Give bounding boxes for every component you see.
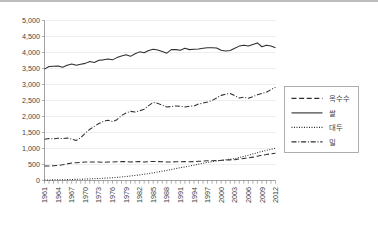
series-line <box>45 43 276 69</box>
y-axis-tick-label: 0 <box>36 176 40 185</box>
x-axis-tick-label: 1967 <box>67 187 76 203</box>
x-axis-tick-label: 2003 <box>230 187 239 203</box>
x-axis-tick-label: 1991 <box>176 187 185 203</box>
x-axis-tick-label: 1997 <box>203 187 212 203</box>
y-axis-tick-label: 1,000 <box>22 144 40 153</box>
x-axis-tick-label: 2000 <box>217 187 226 203</box>
x-axis-tick-label: 1976 <box>108 187 117 203</box>
y-axis-tick-label: 4,500 <box>22 32 40 41</box>
y-axis-tick-label: 2,500 <box>22 96 40 105</box>
x-axis-tick-label: 1985 <box>149 187 158 203</box>
y-axis-tick-label: 3,000 <box>22 80 40 89</box>
x-axis-tick-label: 1961 <box>40 187 49 203</box>
y-axis-tick-label: 1,500 <box>22 128 40 137</box>
legend: 옥수수쌀대두밀 <box>285 87 359 153</box>
x-axis-tick-label: 1964 <box>54 187 63 203</box>
x-axis-tick-label: 1994 <box>190 187 199 203</box>
legend-item-label: 옥수수 <box>329 94 350 103</box>
y-axis-tick-label: 2,000 <box>22 112 40 121</box>
y-axis-tick-label: 4,000 <box>22 48 40 57</box>
series-line <box>45 153 276 166</box>
legend-item-label: 쌀 <box>329 109 336 118</box>
y-axis-tick-label: 3,500 <box>22 64 40 73</box>
y-axis-tick-label: 500 <box>28 160 40 169</box>
y-axis: 05001,0001,5002,0002,5003,0003,5004,0004… <box>22 16 45 185</box>
legend-item-label: 대두 <box>329 123 343 132</box>
line-chart: 05001,0001,5002,0002,5003,0003,5004,0004… <box>0 0 378 225</box>
gridlines <box>45 21 276 165</box>
chart-container: 05001,0001,5002,0002,5003,0003,5004,0004… <box>0 0 378 225</box>
y-axis-tick-label: 5,000 <box>22 16 40 25</box>
x-axis-tick-label: 2009 <box>258 187 267 203</box>
x-axis-tick-label: 1979 <box>122 187 131 203</box>
series-line <box>45 148 276 180</box>
legend-item-label: 밀 <box>329 138 336 147</box>
x-axis-tick-label: 1970 <box>81 187 90 203</box>
x-axis: 1961196419671970197319761979198219851988… <box>40 181 280 204</box>
x-axis-tick-label: 1982 <box>135 187 144 203</box>
x-axis-tick-label: 1973 <box>94 187 103 203</box>
series-group <box>45 43 276 180</box>
x-axis-tick-label: 2012 <box>271 187 280 203</box>
x-axis-tick-label: 2006 <box>244 187 253 203</box>
x-axis-tick-label: 1988 <box>162 187 171 203</box>
